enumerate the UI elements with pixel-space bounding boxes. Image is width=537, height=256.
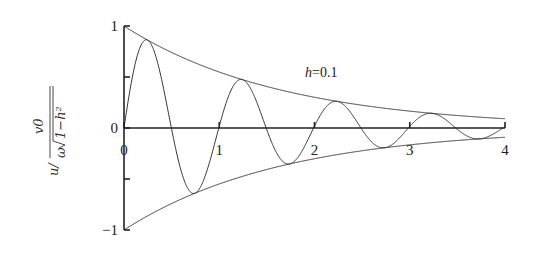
response-curve xyxy=(124,40,505,194)
y-tick-label: −1 xyxy=(102,222,118,238)
damped-oscillation-chart: −101 01234 h=0.1 u/ v0 ω 1−h² xyxy=(0,0,537,256)
x-tick-label: 2 xyxy=(311,142,319,158)
x-tick-label: 4 xyxy=(501,142,509,158)
x-ticks xyxy=(124,122,505,128)
x-tick-label: 0 xyxy=(120,142,128,158)
x-tick-label: 3 xyxy=(406,142,414,158)
damping-ratio-annotation: h=0.1 xyxy=(305,65,337,80)
y-tick-label: 0 xyxy=(111,120,119,136)
y-axis-label: u/ v0 ω 1−h² xyxy=(31,86,68,176)
y-label-numerator: v0 xyxy=(31,118,46,134)
y-ticks xyxy=(124,26,130,230)
x-tick-label: 1 xyxy=(216,142,224,158)
y-label-omega: ω xyxy=(53,147,68,158)
y-tick-labels: −101 xyxy=(102,18,118,238)
x-tick-labels: 01234 xyxy=(120,142,509,158)
y-label-prefix: u/ xyxy=(46,162,61,176)
y-tick-label: 1 xyxy=(111,18,119,34)
y-label-radicand: 1−h² xyxy=(53,106,68,139)
